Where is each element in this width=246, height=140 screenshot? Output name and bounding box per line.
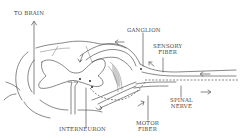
spinal-nerve-outflow-arrow <box>201 90 211 94</box>
ganglion-body <box>112 64 121 88</box>
label-motor-fiber: MOTOR FIBER <box>136 120 159 132</box>
label-spinal-nerve-line2: NERVE <box>170 103 193 109</box>
sensory-inflow-arrow <box>115 40 124 44</box>
motor-outflow-arrow <box>138 101 144 106</box>
label-interneuron: INTERNEURON <box>59 126 106 132</box>
cord-outline-left-inner <box>28 60 34 92</box>
cord-outline-left <box>16 52 28 100</box>
label-sensory-fiber-line2: FIBER <box>153 49 182 55</box>
ventral-arrow <box>96 106 102 110</box>
grey-matter <box>39 59 106 88</box>
label-to-brain: TO BRAIN <box>14 10 44 16</box>
label-sensory-fiber: SENSORY FIBER <box>153 43 182 55</box>
ventral-root <box>92 82 136 100</box>
dorsal-contour <box>36 41 126 48</box>
label-ganglion: GANGLION <box>127 27 161 33</box>
spinal-nerve-inflow-arrow <box>200 72 210 76</box>
spinal-cord-illustration <box>0 0 246 140</box>
spinal-reflex-diagram: TO BRAIN GANGLION SENSORY FIBER SPINAL N… <box>0 0 246 140</box>
ganglion-arrow <box>149 62 154 66</box>
label-motor-fiber-line2: FIBER <box>136 126 159 132</box>
label-spinal-nerve: SPINAL NERVE <box>170 97 193 109</box>
spinal-nerve <box>140 64 236 72</box>
